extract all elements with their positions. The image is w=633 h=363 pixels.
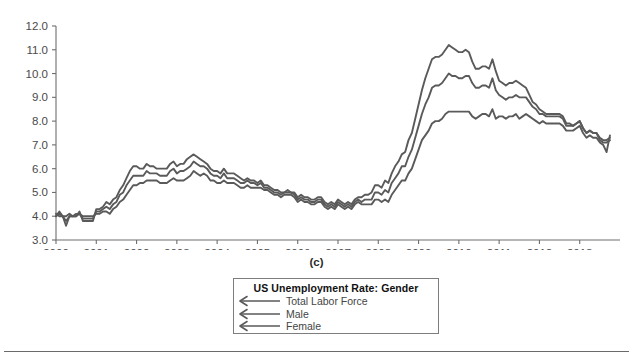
x-tick-label: 2012 (527, 247, 553, 250)
x-tick-label: 2005 (245, 247, 271, 250)
y-tick-label: 4.0 (32, 210, 48, 222)
footer-divider (4, 351, 629, 352)
left-arrow-icon (238, 308, 282, 320)
y-tick-label: 6.0 (32, 163, 48, 175)
x-tick-label: 2008 (365, 247, 391, 250)
y-tick-label: 12.0 (26, 20, 48, 32)
chart-plot-area: 3.04.05.06.07.08.09.010.011.012.0 200020… (0, 0, 633, 250)
x-tick-label: 2010 (446, 247, 472, 250)
legend-title: US Unemployment Rate: Gender (234, 279, 438, 294)
x-tick-label: 2011 (487, 247, 512, 250)
series-line-total-labor-force (56, 74, 610, 221)
chart-series-lines (56, 45, 610, 226)
legend-entry-label: Female (282, 320, 321, 332)
y-tick-label: 5.0 (32, 186, 48, 198)
x-tick-label: 2006 (285, 247, 311, 250)
panel-caption: (c) (0, 256, 633, 268)
x-axis-tick-labels: 2000200120022003200420052006200720082009… (43, 247, 592, 250)
y-tick-label: 7.0 (32, 139, 48, 151)
x-tick-label: 2007 (325, 247, 351, 250)
series-line-male (56, 45, 610, 226)
series-line-female (56, 109, 610, 216)
chart-axes (52, 26, 620, 244)
x-tick-label: 2001 (83, 247, 109, 250)
x-tick-label: 2004 (204, 247, 230, 250)
x-tick-label: 2003 (164, 247, 190, 250)
x-tick-label: 2013 (567, 247, 593, 250)
left-arrow-icon (238, 295, 282, 307)
chart-legend: US Unemployment Rate: Gender Total Labor… (233, 278, 439, 334)
x-tick-label: 2002 (124, 247, 150, 250)
legend-entry: Total Labor Force (234, 295, 438, 308)
y-axis-tick-labels: 3.04.05.06.07.08.09.010.011.012.0 (26, 20, 48, 246)
y-tick-label: 3.0 (32, 234, 48, 246)
x-tick-label: 2000 (43, 247, 69, 250)
y-tick-label: 11.0 (26, 44, 48, 56)
y-tick-label: 9.0 (32, 91, 48, 103)
legend-entry-label: Total Labor Force (282, 295, 368, 307)
legend-entry-label: Male (282, 308, 309, 320)
legend-entry: Female (234, 320, 438, 333)
legend-entry-list: Total Labor ForceMaleFemale (234, 295, 438, 333)
left-arrow-icon (238, 320, 282, 332)
y-tick-label: 8.0 (32, 115, 48, 127)
unemployment-line-chart: 3.04.05.06.07.08.09.010.011.012.0 200020… (0, 0, 633, 250)
unemployment-figure: 3.04.05.06.07.08.09.010.011.012.0 200020… (0, 0, 633, 363)
x-tick-label: 2009 (406, 247, 432, 250)
legend-entry: Male (234, 308, 438, 321)
y-tick-label: 10.0 (26, 68, 48, 80)
